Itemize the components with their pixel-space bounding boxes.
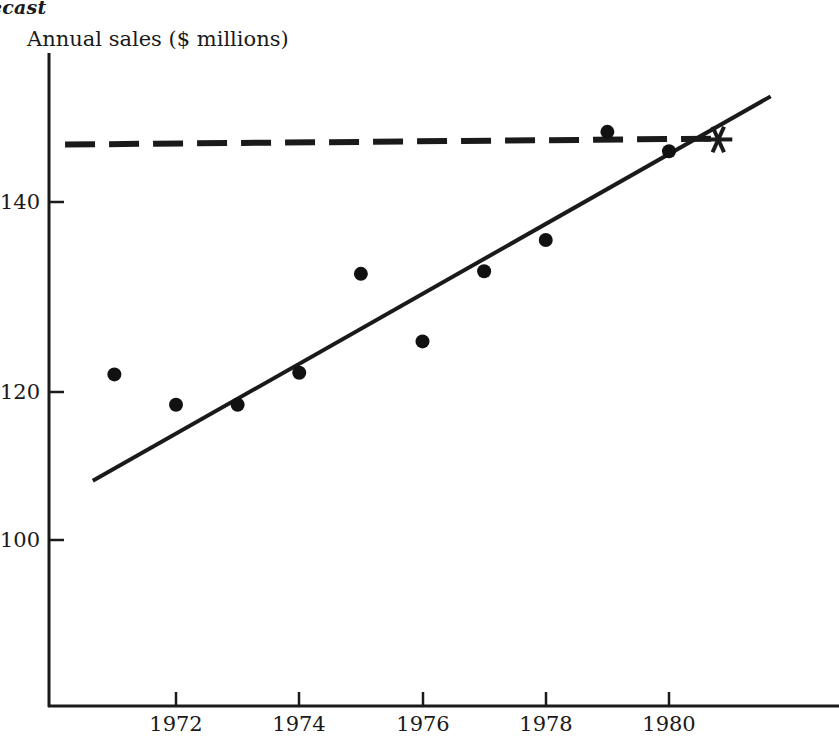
y-tick-label-100: 100	[0, 528, 40, 552]
x-tick-group: 1972 1974 1976 1978 1980	[149, 692, 695, 736]
y-tick-label-120: 120	[0, 380, 40, 404]
data-point-1976	[416, 334, 430, 348]
data-point-group	[107, 125, 676, 412]
chart-canvas: 140 120 100 1972 1974 1976 1978 1980	[0, 0, 839, 742]
x-tick-label-1980: 1980	[642, 712, 695, 736]
data-point-1978	[539, 233, 553, 247]
data-point-1972	[169, 398, 183, 412]
data-point-1971	[107, 367, 121, 381]
chart-container: ecast Annual sales ($ millions) 140 120 …	[0, 0, 839, 742]
data-point-1979	[600, 125, 614, 139]
data-point-1977	[477, 264, 491, 278]
x-tick-label-1974: 1974	[272, 712, 325, 736]
data-point-1980	[662, 144, 676, 158]
data-point-1975	[354, 267, 368, 281]
y-tick-group: 140 120 100	[0, 190, 64, 552]
data-point-1974	[292, 366, 306, 380]
y-tick-label-140: 140	[0, 190, 40, 214]
data-point-1973	[231, 398, 245, 412]
x-tick-label-1972: 1972	[149, 712, 202, 736]
x-tick-label-1976: 1976	[396, 712, 449, 736]
x-tick-label-1978: 1978	[519, 712, 572, 736]
capacity-line	[65, 139, 718, 145]
